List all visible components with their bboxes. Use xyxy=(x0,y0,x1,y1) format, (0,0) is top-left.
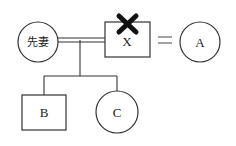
current-marriage-equals xyxy=(158,37,172,43)
family-tree-diagram: 先妻 X A B C xyxy=(0,0,236,146)
node-a: A xyxy=(180,22,220,62)
c-label: C xyxy=(113,105,122,120)
node-c: C xyxy=(96,91,138,133)
former-wife-label: 先妻 xyxy=(27,36,49,49)
x-label: X xyxy=(122,34,132,49)
a-label: A xyxy=(195,35,205,50)
node-b: B xyxy=(22,95,66,130)
former-marriage-line xyxy=(58,38,105,42)
node-former-wife: 先妻 xyxy=(18,22,58,62)
b-label: B xyxy=(40,105,49,120)
